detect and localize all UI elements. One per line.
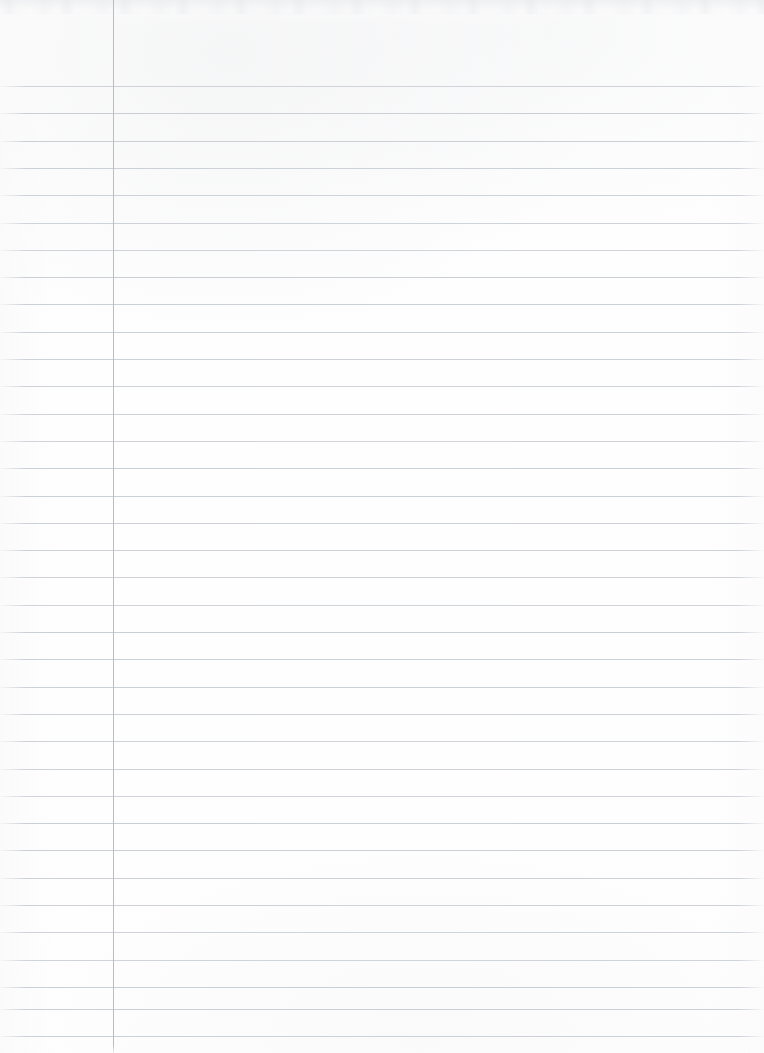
ruled-line [0, 605, 764, 606]
notebook-page: Blank Ruled Notebook Paper [0, 0, 764, 1053]
ruled-line [0, 359, 764, 360]
ruled-line [0, 577, 764, 578]
ruled-line [0, 796, 764, 797]
ruled-line [0, 878, 764, 879]
ruled-line [0, 414, 764, 415]
ruled-line [0, 714, 764, 715]
ruled-line [0, 168, 764, 169]
ruled-line [0, 523, 764, 524]
ruled-line [0, 277, 764, 278]
ruled-line [0, 141, 764, 142]
ruled-lines-group [0, 0, 764, 1053]
ruled-line [0, 905, 764, 906]
ruled-line [0, 1009, 764, 1010]
ruled-line [0, 1036, 764, 1037]
ruled-line [0, 86, 764, 87]
ruled-line [0, 687, 764, 688]
ruled-line [0, 741, 764, 742]
ruled-line [0, 960, 764, 961]
ruled-line [0, 468, 764, 469]
ruled-line [0, 632, 764, 633]
ruled-line [0, 769, 764, 770]
ruled-line [0, 659, 764, 660]
ruled-line [0, 250, 764, 251]
ruled-line [0, 332, 764, 333]
ruled-line [0, 823, 764, 824]
ruled-line [0, 304, 764, 305]
ruled-line [0, 441, 764, 442]
ruled-line [0, 932, 764, 933]
ruled-line [0, 386, 764, 387]
ruled-line [0, 223, 764, 224]
ruled-line [0, 113, 764, 114]
ruled-line [0, 850, 764, 851]
ruled-line [0, 195, 764, 196]
vertical-margin-rule [113, 0, 114, 1053]
ruled-line [0, 987, 764, 988]
ruled-line [0, 550, 764, 551]
ruled-line [0, 496, 764, 497]
